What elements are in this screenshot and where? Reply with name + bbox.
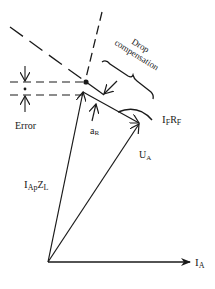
error-dot: [24, 88, 27, 91]
label-drop-compensation: Drop compensation: [113, 29, 166, 73]
drop-compensation-bracket-line: [100, 92, 104, 95]
label-ua: UA: [139, 149, 151, 162]
reference-dashed-steep: [85, 12, 102, 82]
label-ia: IA: [195, 256, 205, 270]
label-ifrf: IFRF: [162, 113, 182, 127]
phasor-diagram: Drop compensation Error aR IFRF UA IApZL…: [0, 0, 215, 289]
label-iapzl: IApZL: [24, 178, 49, 192]
alpha-r-arrow: [92, 104, 96, 121]
drop-compensation-brace: [102, 61, 153, 99]
drop-compensation-arrow: [104, 81, 117, 94]
label-error: Error: [15, 120, 37, 131]
intersection-dot: [83, 79, 88, 84]
label-alpha-r: aR: [90, 125, 99, 137]
vector-ifrf: [83, 92, 139, 123]
